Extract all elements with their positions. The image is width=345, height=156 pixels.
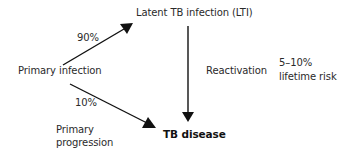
label-90-percent: 90% <box>77 32 99 44</box>
label-reactivation: Reactivation <box>206 65 267 77</box>
node-primary-infection: Primary infection <box>18 65 102 77</box>
node-tb-disease: TB disease <box>163 128 226 140</box>
arrow-primary-to-latent <box>63 23 133 65</box>
node-latent-tb-infection: Latent TB infection (LTI) <box>136 7 253 19</box>
label-primary-progression-1: Primary <box>56 124 94 136</box>
label-risk-percent: 5–10% <box>279 57 312 69</box>
arrow-latent-to-disease <box>182 26 194 122</box>
label-10-percent: 10% <box>75 97 97 109</box>
label-primary-progression-2: progression <box>56 137 113 149</box>
label-lifetime-risk: lifetime risk <box>279 71 337 83</box>
